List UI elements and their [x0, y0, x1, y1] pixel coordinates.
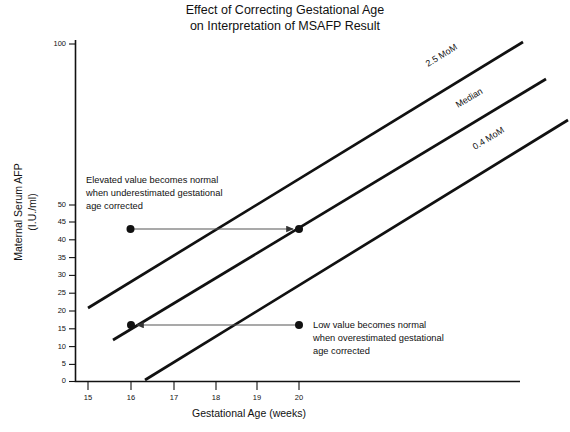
- marker-elevated-to: [295, 225, 303, 233]
- x-axis-title: Gestational Age (weeks): [192, 407, 306, 419]
- x-tick-label-15: 15: [84, 393, 92, 402]
- y-axis-ticks: [69, 44, 76, 382]
- y-tick-label-40: 40: [58, 235, 66, 244]
- x-axis-tick-labels: 15 16 17 18 19 20: [84, 393, 303, 402]
- y-tick-label-15: 15: [58, 324, 66, 333]
- low-note-line-2: when overestimated gestational: [312, 333, 444, 343]
- elevated-note-line-3: age corrected: [86, 201, 143, 211]
- y-tick-label-0: 0: [62, 376, 66, 385]
- elevated-note-line-1: Elevated value becomes normal: [86, 175, 218, 185]
- series-label-0-4-mom: 0.4 MoM: [471, 125, 506, 152]
- y-tick-label-100: 100: [53, 39, 66, 48]
- y-axis-title: Maternal Serum AFP: [12, 163, 24, 260]
- y-tick-label-20: 20: [58, 306, 66, 315]
- chart-title-line1: Effect of Correcting Gestational Age: [186, 3, 385, 17]
- y-axis-tick-labels: 100 50 45 40 35 30 25 20 15 10 5 0: [53, 39, 66, 386]
- x-tick-label-19: 19: [253, 393, 261, 402]
- y-tick-label-50: 50: [58, 200, 66, 209]
- x-tick-label-17: 17: [170, 393, 178, 402]
- series-line-median: [113, 79, 546, 340]
- x-tick-label-16: 16: [127, 393, 135, 402]
- series-label-median: Median: [454, 86, 484, 110]
- low-note-line-3: age corrected: [313, 346, 370, 356]
- y-tick-label-10: 10: [58, 342, 66, 351]
- x-tick-label-20: 20: [295, 393, 303, 402]
- y-tick-label-25: 25: [58, 288, 66, 297]
- chart-container: Effect of Correcting Gestational Age on …: [0, 0, 570, 432]
- y-tick-label-35: 35: [58, 253, 66, 262]
- low-note-annotation: Low value becomes normal when overestima…: [312, 320, 444, 356]
- low-note-line-1: Low value becomes normal: [313, 320, 426, 330]
- msafp-chart: Effect of Correcting Gestational Age on …: [0, 0, 570, 432]
- y-tick-label-5: 5: [62, 359, 66, 368]
- x-tick-label-18: 18: [212, 393, 220, 402]
- y-tick-label-45: 45: [58, 217, 66, 226]
- y-tick-label-30: 30: [58, 270, 66, 279]
- chart-title-line2: on Interpretation of MSAFP Result: [190, 19, 381, 33]
- marker-elevated-from: [127, 225, 135, 233]
- marker-low-to: [127, 321, 135, 329]
- y-axis-units: (I.U./ml): [26, 193, 38, 230]
- x-axis-ticks: [88, 382, 299, 391]
- series-label-2-5-mom: 2.5 MoM: [424, 42, 459, 69]
- elevated-note-line-2: when underestimated gestational: [85, 188, 222, 198]
- marker-low-from: [295, 321, 303, 329]
- elevated-note-annotation: Elevated value becomes normal when under…: [85, 175, 222, 211]
